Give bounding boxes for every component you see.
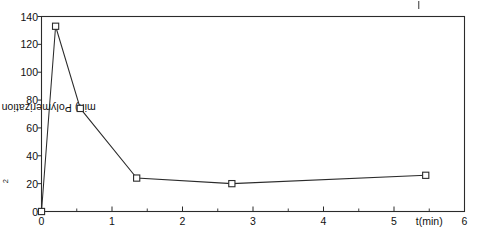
- data-point-marker: [423, 172, 429, 178]
- data-point-marker: [77, 105, 83, 111]
- y-axis-ticks: [38, 17, 42, 212]
- data-point-marker: [134, 175, 140, 181]
- plot-area: [0, 0, 477, 242]
- data-point-marker: [229, 181, 235, 187]
- data-point-marker: [38, 208, 44, 214]
- chart-figure: Polymerization rate (micro g/cm2 min) 02…: [0, 0, 477, 242]
- data-markers: [38, 23, 428, 214]
- data-point-marker: [53, 23, 59, 29]
- x-axis-ticks: [42, 207, 465, 212]
